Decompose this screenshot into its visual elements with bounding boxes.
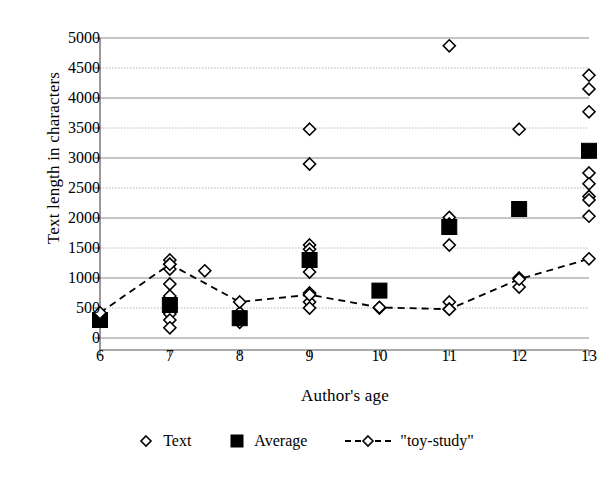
- legend-dashed-line-icon: [345, 433, 391, 449]
- data-point-diamond: [583, 210, 595, 222]
- x-tick-label: 11: [429, 348, 469, 364]
- x-axis-title: Author's age: [95, 386, 595, 406]
- data-point-diamond: [443, 239, 455, 251]
- legend-label: Text: [163, 432, 191, 450]
- x-tick-label: 10: [359, 348, 399, 364]
- data-point-diamond: [199, 265, 211, 277]
- x-tick-label: 13: [569, 348, 609, 364]
- x-tick-label: 7: [150, 348, 190, 364]
- data-point-square: [302, 253, 317, 268]
- data-point-diamond: [443, 40, 455, 52]
- legend-label: Average: [254, 432, 307, 450]
- legend-entry[interactable]: Average: [229, 432, 307, 450]
- data-point-diamond: [304, 123, 316, 135]
- y-tick-label: 1000: [46, 270, 100, 286]
- chart-container: Text length in characters Author's age 5…: [0, 0, 612, 498]
- data-point-diamond: [513, 123, 525, 135]
- data-point-square: [231, 435, 243, 447]
- x-tick-label: 12: [499, 348, 539, 364]
- y-tick-label: 2500: [46, 180, 100, 196]
- y-tick-label: 500: [46, 300, 100, 316]
- data-point-diamond: [234, 296, 246, 308]
- y-tick-label: 3000: [46, 150, 100, 166]
- data-point-square: [372, 283, 387, 298]
- data-point-diamond: [583, 253, 595, 265]
- legend-diamond-icon: [138, 433, 154, 449]
- data-point-diamond: [583, 83, 595, 95]
- data-point-diamond: [583, 69, 595, 81]
- data-point-diamond: [583, 178, 595, 190]
- x-tick-label: 6: [80, 348, 120, 364]
- data-point-square: [442, 220, 457, 235]
- legend-entry[interactable]: Text: [138, 432, 191, 450]
- y-tick-label: 4000: [46, 90, 100, 106]
- data-point-square: [232, 311, 247, 326]
- y-tick-label: 4500: [46, 60, 100, 76]
- y-axis-tick-labels: 5000450040003500300025002000150010005000: [46, 0, 100, 340]
- y-tick-label: 5000: [46, 30, 100, 46]
- x-tick-label: 8: [220, 348, 260, 364]
- data-point-diamond: [583, 106, 595, 118]
- data-point-diamond: [141, 436, 151, 446]
- legend-square-icon: [229, 433, 245, 449]
- data-point-diamond: [513, 273, 525, 285]
- data-point-square: [582, 143, 597, 158]
- data-point-square: [512, 202, 527, 217]
- data-point-square: [162, 298, 177, 313]
- data-point-diamond: [304, 158, 316, 170]
- legend-label: "toy-study": [400, 432, 474, 450]
- data-point-diamond: [164, 322, 176, 334]
- data-point-diamond: [443, 303, 455, 315]
- data-point-diamond: [363, 436, 373, 446]
- y-tick-label: 0: [46, 330, 100, 346]
- y-tick-label: 2000: [46, 210, 100, 226]
- legend-entry[interactable]: "toy-study": [345, 432, 474, 450]
- x-tick-label: 9: [290, 348, 330, 364]
- y-tick-label: 3500: [46, 120, 100, 136]
- chart-legend: TextAverage"toy-study": [0, 432, 612, 450]
- y-tick-label: 1500: [46, 240, 100, 256]
- data-point-diamond: [164, 278, 176, 290]
- data-point-diamond: [373, 301, 385, 313]
